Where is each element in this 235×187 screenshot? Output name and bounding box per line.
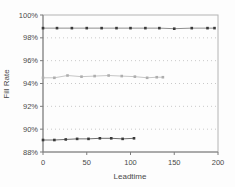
data-point-marker bbox=[80, 75, 83, 78]
high-fill-rate-line bbox=[43, 28, 215, 29]
data-point-marker bbox=[99, 137, 102, 140]
mid-fill-rate-line bbox=[43, 76, 163, 78]
tick-layer: 88%90%92%94%96%98%100%050100150200 bbox=[19, 11, 224, 167]
x-tick-label: 100 bbox=[124, 158, 137, 167]
fill-rate-vs-leadtime-chart: 88%90%92%94%96%98%100%050100150200 Fill … bbox=[0, 0, 235, 187]
y-axis-title: Fill Rate bbox=[2, 69, 11, 99]
data-point-marker bbox=[173, 27, 176, 30]
x-tick-label: 200 bbox=[212, 158, 225, 167]
data-point-marker bbox=[56, 27, 59, 30]
data-point-marker bbox=[76, 138, 79, 141]
data-point-marker bbox=[120, 75, 123, 78]
y-tick-label: 94% bbox=[23, 79, 38, 88]
data-point-marker bbox=[66, 74, 69, 77]
data-point-marker bbox=[144, 27, 147, 30]
x-axis-title: Leadtime bbox=[114, 172, 147, 181]
data-point-marker bbox=[71, 27, 74, 30]
y-tick-label: 90% bbox=[23, 125, 38, 134]
data-point-marker bbox=[121, 138, 124, 141]
data-point-marker bbox=[93, 75, 96, 78]
data-point-marker bbox=[100, 27, 103, 30]
chart-plot: 88%90%92%94%96%98%100%050100150200 Fill … bbox=[0, 0, 235, 187]
data-point-marker bbox=[134, 75, 137, 78]
data-point-marker bbox=[190, 27, 193, 30]
data-point-marker bbox=[64, 138, 67, 141]
data-point-marker bbox=[42, 27, 45, 30]
data-point-marker bbox=[53, 76, 56, 79]
data-point-marker bbox=[206, 27, 209, 30]
data-point-marker bbox=[162, 76, 165, 79]
data-point-marker bbox=[42, 139, 45, 142]
data-point-marker bbox=[155, 76, 158, 79]
data-point-marker bbox=[107, 74, 110, 77]
y-tick-label: 88% bbox=[23, 148, 38, 157]
data-point-marker bbox=[87, 138, 90, 141]
x-tick-label: 0 bbox=[41, 158, 45, 167]
data-point-marker bbox=[158, 27, 161, 30]
data-point-marker bbox=[53, 139, 56, 142]
data-point-marker bbox=[129, 27, 132, 30]
data-point-marker bbox=[213, 27, 216, 30]
data-point-marker bbox=[115, 27, 118, 30]
y-tick-label: 100% bbox=[19, 11, 39, 20]
data-point-marker bbox=[42, 76, 45, 79]
data-point-marker bbox=[146, 76, 149, 79]
grid-layer bbox=[43, 38, 218, 129]
data-point-marker bbox=[85, 27, 88, 30]
x-tick-label: 50 bbox=[83, 158, 91, 167]
series-layer bbox=[42, 27, 216, 141]
y-tick-label: 96% bbox=[23, 56, 38, 65]
y-tick-label: 92% bbox=[23, 102, 38, 111]
data-point-marker bbox=[133, 137, 136, 140]
y-tick-label: 98% bbox=[23, 33, 38, 42]
x-tick-label: 150 bbox=[168, 158, 181, 167]
data-point-marker bbox=[110, 137, 113, 140]
